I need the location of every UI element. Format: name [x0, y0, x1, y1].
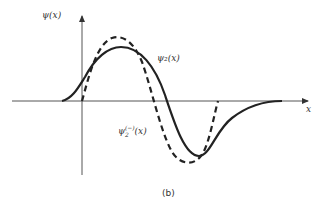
- psi2-minus-label: ψ2(−)(x): [118, 124, 147, 138]
- psi2-minus-curve: [82, 37, 218, 162]
- figure-caption: (b): [162, 188, 175, 198]
- y-axis-label: ψ(x): [42, 10, 61, 20]
- wavefunction-plot: [0, 0, 321, 204]
- x-axis-label: x: [306, 104, 311, 114]
- psi2-label: ψ₂(x): [157, 53, 180, 63]
